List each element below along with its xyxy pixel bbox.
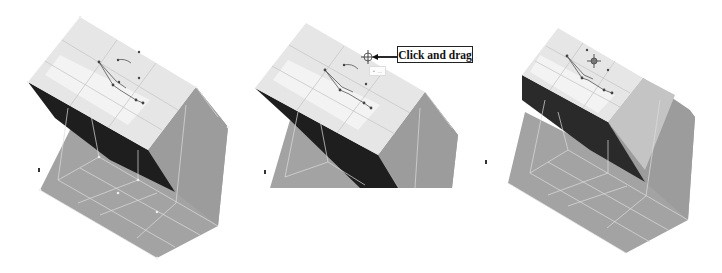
click-and-drag-callout: Click and drag xyxy=(397,46,473,63)
step-2-panel xyxy=(240,0,480,273)
step-3-panel xyxy=(480,0,722,273)
step-1-panel xyxy=(0,0,240,273)
mesh-surface-view-1 xyxy=(0,0,240,273)
point-tooltip: • ... xyxy=(369,66,386,76)
crosshair-cursor-icon xyxy=(355,45,400,67)
mesh-surface-view-2 xyxy=(240,0,480,273)
mesh-surface-view-3 xyxy=(480,0,722,273)
